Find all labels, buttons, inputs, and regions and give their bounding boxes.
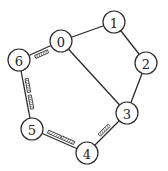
node-5: 5 bbox=[21, 118, 43, 140]
node-4: 4 bbox=[76, 142, 98, 164]
node-6: 6 bbox=[8, 49, 30, 71]
node-label: 4 bbox=[83, 147, 91, 162]
node-0: 0 bbox=[50, 30, 72, 52]
node-label: 3 bbox=[123, 107, 131, 122]
node-label: 5 bbox=[28, 123, 36, 138]
node-2: 2 bbox=[135, 52, 157, 74]
node-label: 0 bbox=[57, 35, 65, 50]
edge-marker bbox=[28, 95, 34, 109]
edge-0-3 bbox=[61, 41, 127, 113]
edge-marker bbox=[98, 124, 110, 136]
edge-marker bbox=[35, 50, 49, 59]
node-label: 6 bbox=[15, 54, 23, 69]
graph-diagram: 0123456 bbox=[0, 0, 168, 171]
edge-marker bbox=[47, 130, 61, 139]
node-label: 1 bbox=[110, 16, 118, 31]
node-1: 1 bbox=[103, 11, 125, 33]
node-label: 2 bbox=[142, 57, 150, 72]
edge-marker bbox=[25, 78, 31, 92]
edge-marker bbox=[61, 136, 75, 145]
node-3: 3 bbox=[116, 102, 138, 124]
